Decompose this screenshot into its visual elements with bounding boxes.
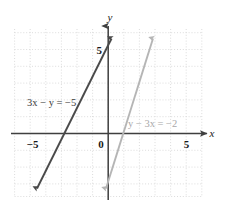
x-axis-label: x: [209, 127, 215, 139]
y-tick-label-5: 5: [97, 44, 103, 56]
y-axis-label: y: [107, 11, 113, 23]
x-tick-label-pos5: 5: [184, 138, 190, 150]
equation-label-line1: 3x − y = −5: [27, 97, 76, 108]
graph-canvas: −5 0 5 5 x y 3x − y = −5 y − 3x = −2: [0, 0, 231, 210]
origin-label: 0: [98, 138, 104, 150]
x-tick-label-neg5: −5: [27, 138, 39, 150]
line-y-minus-3x-equals-neg2: [106, 39, 153, 189]
equation-label-line2: y − 3x = −2: [128, 118, 177, 129]
line-3x-minus-y-equals-neg5: [37, 39, 112, 189]
coordinate-plane-figure: −5 0 5 5 x y 3x − y = −5 y − 3x = −2: [0, 0, 231, 210]
